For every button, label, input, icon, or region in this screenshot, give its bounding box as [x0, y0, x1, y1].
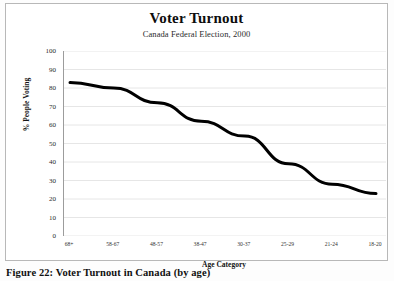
x-tick-label-1: 58-67 — [106, 242, 119, 248]
chart-title: Voter Turnout — [6, 10, 387, 27]
figure-page: Voter Turnout Canada Federal Election, 2… — [0, 0, 394, 281]
figure-frame: Voter Turnout Canada Federal Election, 2… — [5, 3, 388, 261]
x-tick-label-6: 21-24 — [325, 242, 338, 248]
y-tick-label-2: 80 — [49, 85, 56, 92]
y-tick-label-0: 100 — [46, 48, 57, 55]
x-tick-label-2: 48-57 — [150, 242, 163, 248]
y-tick-label-4: 60 — [49, 122, 56, 129]
y-tick-label-5: 50 — [49, 140, 56, 147]
figure-caption: Figure 22: Voter Turnout in Canada (by a… — [6, 267, 388, 278]
y-tick-label-7: 30 — [49, 177, 56, 184]
chart-subtitle: Canada Federal Election, 2000 — [6, 29, 387, 39]
y-tick-label-9: 10 — [49, 214, 56, 221]
gridlines — [64, 51, 386, 236]
y-tick-label-10: 0 — [53, 233, 57, 240]
y-tick-label-3: 70 — [49, 103, 56, 110]
series-line-voter-turnout — [70, 82, 376, 193]
y-tick-label-1: 90 — [49, 66, 56, 73]
x-axis-tick-labels: 68+58-6748-5738-4730-3725-2921-2418-20 — [63, 242, 385, 254]
x-tick-label-4: 30-37 — [237, 242, 250, 248]
y-axis-tick-labels: 1009080706050403020100 — [26, 51, 60, 236]
y-tick-label-8: 20 — [49, 196, 56, 203]
x-tick-label-0: 68+ — [65, 242, 74, 248]
plot-area — [63, 51, 386, 236]
x-tick-label-5: 25-29 — [281, 242, 294, 248]
x-tick-label-3: 38-47 — [194, 242, 207, 248]
y-tick-label-6: 40 — [49, 159, 56, 166]
line-chart-svg — [64, 51, 386, 236]
x-tick-label-7: 18-20 — [368, 242, 381, 248]
